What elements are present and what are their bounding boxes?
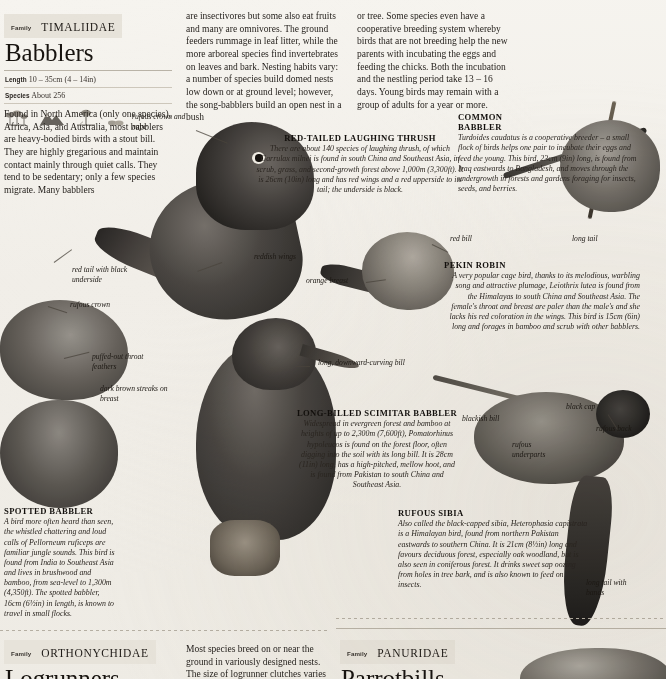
- annotation-reddish-wings: reddish wings: [230, 252, 296, 262]
- family-bar-babblers: Family TIMALIIDAE: [4, 14, 122, 38]
- annotation-text: long tail with bands: [586, 578, 627, 597]
- species-text-red-tailed-laughing-thrush: There are about 140 species of laughing …: [256, 144, 464, 195]
- leader-line: [48, 306, 67, 313]
- species-name-pekin-robin: PEKIN ROBIN: [444, 260, 640, 270]
- caption-pekin-robin: PEKIN ROBIN A very popular cage bird, th…: [444, 260, 640, 332]
- annotation-rufous-crown: rufous crown: [70, 300, 148, 310]
- leader-line: [366, 279, 386, 283]
- leader-line: [296, 366, 310, 367]
- leader-line: [196, 130, 228, 144]
- pekin-robin-illustration: [362, 232, 454, 310]
- annotation-text: red tail with black underside: [72, 265, 127, 284]
- family-bar-parrotbills: Family PANURIDAE: [340, 640, 455, 664]
- stat-species-label: Species: [5, 92, 30, 99]
- annotation-text: red bill: [450, 234, 472, 243]
- annotation-text: rufous underparts: [512, 440, 545, 459]
- family-label: Family: [347, 650, 367, 657]
- annotation-text: blackish bill: [462, 414, 499, 423]
- spotted-babbler-illustration-lower: [0, 400, 118, 508]
- page-title-parrotbills: Parrotbills: [341, 665, 490, 679]
- family-label: Family: [11, 24, 31, 31]
- leader-line: [54, 249, 72, 263]
- annotation-text: rufous back: [596, 424, 632, 433]
- annotation-puffed-out-throat-feathers: puffed-out throat feathers: [92, 352, 164, 371]
- intro-text-2: are insectivores but some also eat fruit…: [186, 10, 344, 124]
- species-name-long-billed-scimitar-babbler: LONG-BILLED SCIMITAR BABBLER: [296, 408, 458, 418]
- divider: [4, 103, 172, 104]
- annotation-long-tail: long tail: [572, 234, 620, 244]
- annotation-text: dark brown streaks on breast: [100, 384, 168, 403]
- annotation-text: black cap: [566, 402, 595, 411]
- leader-line: [432, 244, 449, 253]
- divider: [4, 87, 172, 88]
- caption-red-tailed-laughing-thrush: RED-TAILED LAUGHING THRUSH There are abo…: [256, 133, 464, 195]
- species-name-red-tailed-laughing-thrush: RED-TAILED LAUGHING THRUSH: [256, 133, 464, 143]
- annotation-blackish-bill: blackish bill: [462, 414, 516, 424]
- stat-length-value: 10 – 35cm (4 – 14in): [29, 75, 96, 84]
- caption-spotted-babbler: SPOTTED BABBLER A bird more often heard …: [4, 506, 116, 619]
- annotation-red-bill: red bill: [450, 234, 494, 244]
- logrunners-column: Most species breed on or near the ground…: [186, 643, 336, 679]
- section-divider-left: [0, 630, 330, 631]
- annotation-text: long, downward-curving bill: [318, 358, 405, 367]
- divider: [336, 628, 666, 629]
- long-billed-scimitar-babbler-head: [232, 318, 316, 390]
- family-name-panuridae: PANURIDAE: [377, 647, 448, 659]
- species-text-rufous-sibia: Also called the black-capped sibia, Hete…: [398, 519, 588, 590]
- annotation-black-cap: black cap: [566, 402, 616, 412]
- annotation-rufous-back: rufous back: [596, 424, 652, 434]
- annotation-red-tail-with-black-underside: red tail with black underside: [72, 265, 154, 284]
- family-label: Family: [11, 650, 31, 657]
- logrunners-section-header: Family ORTHONYCHIDAE Logrunners: [4, 640, 154, 679]
- leader-line: [197, 262, 222, 272]
- parrotbill-illustration: [520, 648, 666, 679]
- stat-species: Species About 256: [4, 88, 172, 104]
- species-text-spotted-babbler: A bird more often heard than seen, the w…: [4, 517, 116, 619]
- species-name-rufous-sibia: RUFOUS SIBIA: [398, 508, 588, 518]
- annotation-dark-brown-streaks-on-breast: dark brown streaks on breast: [100, 384, 182, 403]
- annotation-text: rufous crown: [70, 300, 110, 309]
- caption-common-babbler: COMMON BABBLER Turdoides caudatus is a c…: [458, 112, 638, 194]
- annotation-text: rufous crown and nape: [132, 112, 185, 131]
- section-divider-right: [336, 618, 666, 619]
- annotation-rufous-underparts: rufous underparts: [512, 440, 564, 459]
- intro-column-2: are insectivores but some also eat fruit…: [186, 10, 344, 124]
- species-text-pekin-robin: A very popular cage bird, thanks to its …: [444, 271, 640, 332]
- caption-rufous-sibia: RUFOUS SIBIA Also called the black-cappe…: [398, 508, 588, 590]
- annotation-orange-breast: orange breast: [306, 276, 366, 286]
- stat-length-label: Length: [5, 76, 27, 83]
- annotation-long-downward-curving-bill: long, downward-curving bill: [318, 358, 408, 368]
- long-billed-scimitar-babbler-perch: [210, 520, 280, 576]
- intro-column-3: or tree. Some species even have a cooper…: [357, 10, 515, 111]
- annotation-text: orange breast: [306, 276, 348, 285]
- annotation-long-tail-with-bands: long tail with bands: [586, 578, 644, 597]
- annotation-text: puffed-out throat feathers: [92, 352, 143, 371]
- species-name-common-babbler: COMMON BABBLER: [458, 112, 530, 132]
- species-text-common-babbler: Turdoides caudatus is a cooperative bree…: [458, 133, 638, 194]
- page-title-logrunners: Logrunners: [5, 665, 154, 679]
- stat-length: Length 10 – 35cm (4 – 14in): [4, 71, 172, 87]
- annotation-text: reddish wings: [254, 252, 296, 261]
- logrunners-text: Most species breed on or near the ground…: [186, 643, 336, 679]
- annotation-rufous-crown-and-nape: rufous crown and nape: [132, 112, 198, 131]
- caption-long-billed-scimitar-babbler: LONG-BILLED SCIMITAR BABBLER Widespread …: [296, 408, 458, 490]
- species-text-long-billed-scimitar-babbler: Widespread in evergreen forest and bambo…: [296, 419, 458, 490]
- annotation-text: long tail: [572, 234, 598, 243]
- intro-text-3: or tree. Some species even have a cooper…: [357, 10, 515, 111]
- stat-species-value: About 256: [31, 91, 65, 100]
- encyclopedia-page: Family TIMALIIDAE Babblers Length 10 – 3…: [0, 0, 666, 679]
- family-bar-logrunners: Family ORTHONYCHIDAE: [4, 640, 156, 664]
- species-name-spotted-babbler: SPOTTED BABBLER: [4, 506, 116, 516]
- leader-line: [64, 352, 89, 359]
- family-name-timaliidae: TIMALIIDAE: [41, 21, 115, 33]
- family-name-orthonychidae: ORTHONYCHIDAE: [41, 647, 148, 659]
- parrotbills-section-header: Family PANURIDAE Parrotbills: [340, 640, 490, 679]
- page-title-babblers: Babblers: [5, 39, 172, 67]
